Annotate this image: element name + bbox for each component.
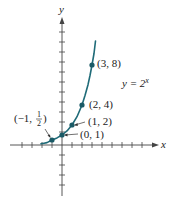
arrowhead-pm1-icon <box>48 135 51 139</box>
label-pm1-den: 2 <box>37 119 41 128</box>
label-pm1-close: ) <box>43 112 47 125</box>
axes <box>10 22 154 196</box>
label-p3: (3, 8) <box>97 57 121 70</box>
function-label: y = 2x <box>121 76 149 89</box>
label-p1: (1, 2) <box>88 115 112 128</box>
point-neg1 <box>49 137 54 142</box>
y-axis-arrow-icon <box>60 17 65 24</box>
arrowhead-p1-icon <box>74 123 78 126</box>
point-3 <box>89 62 94 67</box>
point-1 <box>69 122 74 127</box>
x-axis-arrow-icon <box>152 143 159 148</box>
label-pm1-num: 1 <box>37 110 41 119</box>
label-pm1: (−1, 1 2 ) <box>14 110 47 128</box>
point-0 <box>59 132 64 137</box>
x-axis-label: x <box>160 138 166 150</box>
label-pm1-open: (−1, <box>14 112 32 125</box>
exponential-graph: y x (3, 8) (2, 4) (1, 2) (0, 1) (−1, 1 2… <box>0 0 174 206</box>
y-axis-label: y <box>58 3 64 15</box>
label-p0: (0, 1) <box>80 128 104 141</box>
function-label-base: y = 2 <box>121 77 146 89</box>
function-label-exp: x <box>144 76 149 85</box>
point-2 <box>79 102 84 107</box>
label-p2: (2, 4) <box>89 98 113 111</box>
